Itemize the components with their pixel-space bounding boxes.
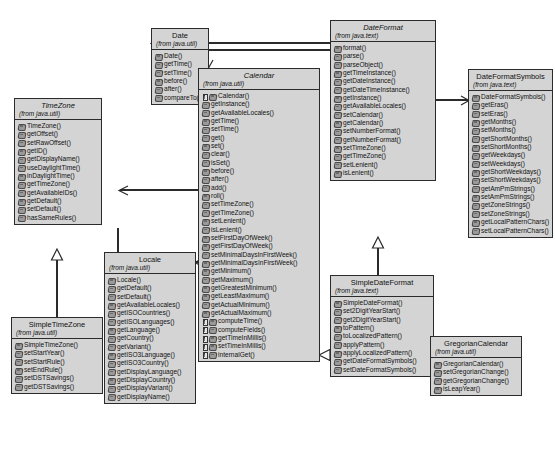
operation-row[interactable]: getDSTSavings() bbox=[14, 383, 101, 391]
operation-row[interactable]: format() bbox=[333, 44, 434, 52]
operation-row[interactable]: clear() bbox=[201, 150, 318, 158]
operation-row[interactable]: setRawOffset() bbox=[17, 139, 100, 147]
operation-row[interactable]: getGregorianChange() bbox=[433, 377, 520, 385]
operation-row[interactable]: getAmPmStrings() bbox=[471, 185, 551, 193]
operation-row[interactable]: setMinimalDaysInFirstWeek() bbox=[201, 251, 318, 259]
operation-row[interactable]: setStartRule() bbox=[14, 358, 101, 366]
operation-row[interactable]: getShortMonths() bbox=[471, 135, 551, 143]
operation-row[interactable]: setDefault() bbox=[107, 293, 194, 301]
operation-row[interactable]: getDefault() bbox=[107, 284, 194, 292]
operation-row[interactable]: getOffset() bbox=[17, 130, 100, 138]
operation-row[interactable]: getMinimum() bbox=[201, 267, 318, 275]
operation-row[interactable]: useDaylightTime() bbox=[17, 164, 100, 172]
operation-row[interactable]: getShortWeekdays() bbox=[471, 168, 551, 176]
operation-row[interactable]: applyLocalizedPattern() bbox=[333, 349, 432, 357]
operation-row[interactable]: getActualMinimum() bbox=[201, 301, 318, 309]
operation-row[interactable]: getFirstDayOfWeek() bbox=[201, 242, 318, 250]
operation-row[interactable]: parseObject() bbox=[333, 61, 434, 69]
operation-row[interactable]: getAvailableLocales() bbox=[201, 109, 318, 117]
operation-row[interactable]: setEras() bbox=[471, 110, 551, 118]
operation-row[interactable]: TimeZone() bbox=[17, 122, 100, 130]
operation-row[interactable]: getTime() bbox=[201, 117, 318, 125]
operation-row[interactable]: getDisplayName() bbox=[107, 393, 194, 401]
class-box-dateformatsymbols[interactable]: DateFormatSymbols (from java.text) DateF… bbox=[468, 69, 553, 238]
operation-row[interactable]: getAvailableIDs() bbox=[17, 189, 100, 197]
operation-row[interactable]: setAmPmStrings() bbox=[471, 193, 551, 201]
operation-row[interactable]: getISOLanguages() bbox=[107, 318, 194, 326]
operation-row[interactable]: getDisplayLanguage() bbox=[107, 368, 194, 376]
operation-row[interactable]: Calendar() bbox=[201, 92, 318, 100]
operation-row[interactable]: getLanguage() bbox=[107, 326, 194, 334]
class-box-gregoriancalendar[interactable]: GregorianCalendar (from java.util) Grego… bbox=[430, 336, 522, 396]
operation-row[interactable]: getTimeZone() bbox=[333, 152, 434, 160]
operation-row[interactable]: getTimeInMillis() bbox=[201, 334, 318, 342]
operation-row[interactable]: setFirstDayOfWeek() bbox=[201, 234, 318, 242]
operation-row[interactable]: setTimeZone() bbox=[201, 200, 318, 208]
operation-row[interactable]: after() bbox=[201, 175, 318, 183]
operation-row[interactable]: setNumberFormat() bbox=[333, 127, 434, 135]
operation-row[interactable]: getAvailableLocales() bbox=[333, 102, 434, 110]
operation-row[interactable]: getDisplayName() bbox=[17, 155, 100, 163]
operation-row[interactable]: setStartYear() bbox=[14, 349, 101, 357]
operation-row[interactable]: get2DigitYearStart() bbox=[333, 316, 432, 324]
operation-row[interactable]: setShortWeekdays() bbox=[471, 176, 551, 184]
operation-row[interactable]: getGreatestMinimum() bbox=[201, 284, 318, 292]
operation-row[interactable]: Locale() bbox=[107, 276, 194, 284]
operation-row[interactable]: getNumberFormat() bbox=[333, 136, 434, 144]
class-box-simpledateformat[interactable]: SimpleDateFormat (from java.text) Simple… bbox=[330, 275, 434, 377]
operation-row[interactable]: getCountry() bbox=[107, 334, 194, 342]
operation-row[interactable]: inDaylightTime() bbox=[17, 172, 100, 180]
class-box-simpletimezone[interactable]: SimpleTimeZone (from java.util) SimpleTi… bbox=[11, 317, 103, 394]
operation-row[interactable]: getTimeZone() bbox=[17, 180, 100, 188]
operation-row[interactable]: getDefault() bbox=[17, 197, 100, 205]
operation-row[interactable]: getEras() bbox=[471, 101, 551, 109]
operation-row[interactable]: getDateInstance() bbox=[333, 77, 434, 85]
operation-row[interactable]: getISO3Country() bbox=[107, 359, 194, 367]
operation-row[interactable]: applyPattern() bbox=[333, 341, 432, 349]
class-box-locale[interactable]: Locale (from java.util) Locale() getDefa… bbox=[104, 252, 196, 404]
operation-row[interactable]: toPattern() bbox=[333, 324, 432, 332]
operation-row[interactable]: getID() bbox=[17, 147, 100, 155]
operation-row[interactable]: getTimeInstance() bbox=[333, 69, 434, 77]
operation-row[interactable]: setLocalPatternChars() bbox=[471, 227, 551, 235]
operation-row[interactable]: getAvailableLocales() bbox=[107, 301, 194, 309]
operation-row[interactable]: setShortMonths() bbox=[471, 143, 551, 151]
operation-row[interactable]: getLocalPatternChars() bbox=[471, 218, 551, 226]
operation-row[interactable]: setZoneStrings() bbox=[471, 210, 551, 218]
operation-row[interactable]: setDateFormatSymbols() bbox=[333, 366, 432, 374]
operation-row[interactable]: DateFormatSymbols() bbox=[471, 93, 551, 101]
operation-row[interactable]: parse() bbox=[333, 52, 434, 60]
operation-row[interactable]: getMinimalDaysInFirstWeek() bbox=[201, 259, 318, 267]
class-box-timezone[interactable]: TimeZone (from java.util) TimeZone() get… bbox=[14, 98, 102, 225]
operation-row[interactable]: getTimeZone() bbox=[201, 209, 318, 217]
operation-row[interactable]: getInstance() bbox=[201, 100, 318, 108]
operation-row[interactable]: Date() bbox=[154, 52, 207, 60]
operation-row[interactable]: GregorianCalendar() bbox=[433, 360, 520, 368]
operation-row[interactable]: SimpleDateFormat() bbox=[333, 299, 432, 307]
operation-row[interactable]: getDisplayCountry() bbox=[107, 376, 194, 384]
operation-row[interactable]: set2DigitYearStart() bbox=[333, 307, 432, 315]
operation-row[interactable]: setTimeZone() bbox=[333, 144, 434, 152]
operation-row[interactable]: setCalendar() bbox=[333, 111, 434, 119]
operation-row[interactable]: setLenient() bbox=[333, 161, 434, 169]
operation-row[interactable]: get() bbox=[201, 134, 318, 142]
operation-row[interactable]: setMonths() bbox=[471, 126, 551, 134]
operation-row[interactable]: roll() bbox=[201, 192, 318, 200]
operation-row[interactable]: setDSTSavings() bbox=[14, 374, 101, 382]
operation-row[interactable]: isLenient() bbox=[333, 169, 434, 177]
operation-row[interactable]: getCalendar() bbox=[333, 119, 434, 127]
class-box-calendar[interactable]: Calendar (from java.util) Calendar() get… bbox=[198, 68, 320, 362]
operation-row[interactable]: getVariant() bbox=[107, 343, 194, 351]
operation-row[interactable]: SimpleTimeZone() bbox=[14, 341, 101, 349]
operation-row[interactable]: setTimeInMillis() bbox=[201, 342, 318, 350]
operation-row[interactable]: setWeekdays() bbox=[471, 160, 551, 168]
operation-row[interactable]: internalGet() bbox=[201, 351, 318, 359]
operation-row[interactable]: isLenient() bbox=[201, 226, 318, 234]
operation-row[interactable]: isLeapYear() bbox=[433, 385, 520, 393]
operation-row[interactable]: setDefault() bbox=[17, 205, 100, 213]
operation-row[interactable]: setGregorianChange() bbox=[433, 368, 520, 376]
class-box-dateformat[interactable]: DateFormat (from java.text) format() par… bbox=[330, 20, 436, 181]
operation-row[interactable]: getISOCountries() bbox=[107, 309, 194, 317]
operation-row[interactable]: computeFields() bbox=[201, 326, 318, 334]
operation-row[interactable]: setEndRule() bbox=[14, 366, 101, 374]
